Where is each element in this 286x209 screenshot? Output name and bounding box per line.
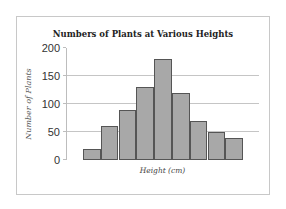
plot-area xyxy=(66,48,259,160)
y-tick-label: 50 xyxy=(48,126,60,138)
bar xyxy=(172,93,190,160)
chart-title: Numbers of Plants at Various Heights xyxy=(0,29,286,39)
y-tick-label: 0 xyxy=(54,154,60,166)
y-tick-label: 200 xyxy=(42,42,60,54)
bar xyxy=(101,126,119,160)
bar xyxy=(208,132,226,160)
bar xyxy=(190,121,208,160)
bar xyxy=(136,87,154,160)
bar xyxy=(154,59,172,160)
bar xyxy=(119,110,137,160)
y-tick-label: 100 xyxy=(42,98,60,110)
y-tick-label: 150 xyxy=(42,70,60,82)
bar xyxy=(83,149,101,160)
bar xyxy=(225,138,243,160)
x-axis-label: Height (cm) xyxy=(66,166,259,175)
y-axis-label: Number of Plants xyxy=(24,68,33,139)
